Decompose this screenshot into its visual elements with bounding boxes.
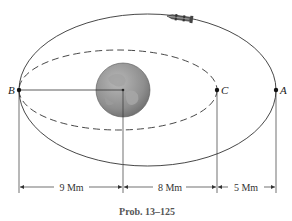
- dimension-8mm: 8 Mm: [124, 182, 216, 193]
- point-A: [274, 88, 278, 92]
- point-B: [17, 88, 21, 92]
- label-C: C: [221, 84, 229, 96]
- figure-caption: Prob. 13–125: [119, 206, 175, 217]
- dimension-5mm: 5 Mm: [218, 182, 275, 193]
- label-B: B: [8, 84, 15, 96]
- point-C: [215, 88, 219, 92]
- orbit-diagram: B C A 9 Mm 8 Mm 5 Mm Prob. 13–125: [0, 0, 292, 221]
- svg-text:5 Mm: 5 Mm: [234, 182, 258, 193]
- svg-text:8 Mm: 8 Mm: [158, 182, 182, 193]
- rocket-icon: [167, 12, 194, 23]
- dimension-9mm: 9 Mm: [20, 182, 122, 193]
- label-A: A: [279, 84, 287, 96]
- svg-text:9 Mm: 9 Mm: [59, 182, 83, 193]
